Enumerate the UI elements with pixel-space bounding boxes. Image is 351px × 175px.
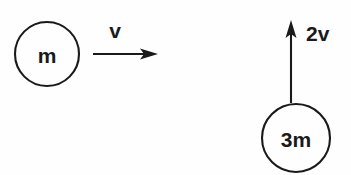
velocity-label-2v: 2v	[306, 22, 330, 45]
mass-label-3m: 3m	[281, 128, 311, 151]
mass-body-m: m	[15, 22, 79, 86]
velocity-vector-2v: 2v	[286, 20, 330, 103]
velocity-vector-v: v	[93, 19, 158, 60]
physics-collision-diagram: m v 3m 2v	[0, 0, 351, 175]
diagram-canvas: m v 3m 2v	[0, 0, 351, 175]
mass-label-m: m	[38, 44, 57, 67]
velocity-label-v: v	[109, 19, 121, 42]
mass-body-3m: 3m	[262, 104, 330, 172]
